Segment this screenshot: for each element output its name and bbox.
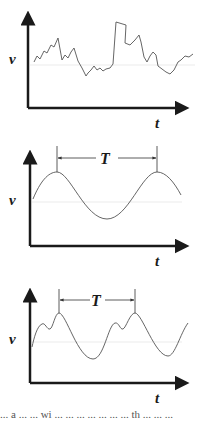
period-label: T [91,292,102,309]
y-axis-label: v [9,331,16,347]
panel-complex-periodic: T v t [9,289,188,406]
sine-waveform [33,172,181,219]
x-axis-label: t [155,115,160,131]
panel-sinusoid: T v t [9,146,182,269]
random-waveform [34,22,193,76]
y-axis-label: v [9,192,16,208]
period-label: T [100,150,111,167]
complex-waveform [32,313,188,359]
x-axis-label: t [155,253,160,269]
waveform-diagram: v t T v t T v t [0,0,202,421]
caption-cutoff: ... a ... ... wi ... ... ... ... ... ...… [0,408,202,421]
panel-random: v t [9,18,195,131]
y-axis-label: v [9,51,16,67]
x-axis-label: t [155,390,160,406]
